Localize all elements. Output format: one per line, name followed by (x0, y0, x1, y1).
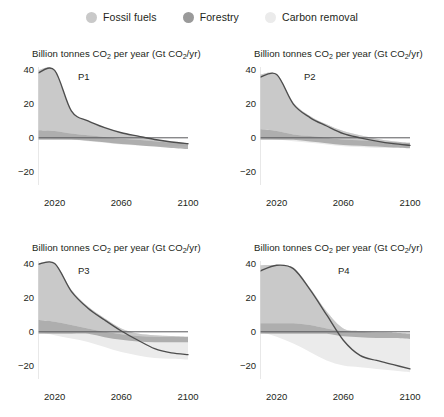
panel-grid: Billion tonnes CO2 per year (Gt CO2/yr)4… (0, 34, 444, 417)
plot-p2 (260, 67, 416, 189)
panel-title: Billion tonnes CO2 per year (Gt CO2/yr) (32, 242, 201, 253)
legend-swatch-carbon-removal (265, 12, 276, 23)
legend-swatch-forestry (183, 12, 194, 23)
panel-title-text: Billion tonnes CO2 per year (Gt CO2/yr) (32, 48, 201, 59)
plot-p1 (38, 67, 194, 189)
panel-title-text: Billion tonnes CO2 per year (Gt CO2/yr) (254, 242, 423, 253)
plot-p4 (260, 261, 416, 383)
legend-item-fossil-fuels: Fossil fuels (86, 11, 157, 23)
x-axis-tick-2: 2100 (390, 197, 430, 208)
y-axis-tick-2: 0 (12, 326, 34, 337)
panel-code-label: P4 (338, 265, 350, 276)
panel-code-label: P1 (78, 71, 90, 82)
panel-title-text: Billion tonnes CO2 per year (Gt CO2/yr) (32, 242, 201, 253)
legend-label-carbon-removal: Carbon removal (282, 11, 358, 23)
panel-title: Billion tonnes CO2 per year (Gt CO2/yr) (32, 48, 201, 59)
x-axis-tick-2: 2100 (168, 197, 208, 208)
x-axis-tick-0: 2020 (257, 391, 297, 402)
y-axis-tick-3: −20 (12, 360, 34, 371)
area-fossil-fuels (260, 265, 410, 333)
y-axis-tick-3: −20 (234, 166, 256, 177)
x-axis-tick-1: 2060 (101, 197, 141, 208)
legend-label-fossil-fuels: Fossil fuels (103, 11, 157, 23)
plot-area-p4 (260, 261, 416, 383)
y-axis-tick-2: 0 (234, 326, 256, 337)
panel-title: Billion tonnes CO2 per year (Gt CO2/yr) (254, 242, 423, 253)
x-axis-tick-0: 2020 (35, 391, 75, 402)
x-axis-tick-2: 2100 (168, 391, 208, 402)
panel-code-label: P3 (78, 265, 90, 276)
plot-area-p3 (38, 261, 194, 383)
panel-p2: Billion tonnes CO2 per year (Gt CO2/yr)4… (222, 34, 444, 228)
legend-label-forestry: Forestry (200, 11, 239, 23)
y-axis-tick-0: 40 (234, 64, 256, 75)
x-axis-tick-0: 2020 (257, 197, 297, 208)
y-axis-tick-1: 20 (234, 292, 256, 303)
panel-p1: Billion tonnes CO2 per year (Gt CO2/yr)4… (0, 34, 222, 228)
x-axis-tick-1: 2060 (101, 391, 141, 402)
x-axis-tick-2: 2100 (390, 391, 430, 402)
panel-p3: Billion tonnes CO2 per year (Gt CO2/yr)4… (0, 228, 222, 417)
y-axis-tick-0: 40 (12, 258, 34, 269)
x-axis-tick-1: 2060 (323, 391, 363, 402)
x-axis-tick-1: 2060 (323, 197, 363, 208)
y-axis-tick-3: −20 (12, 166, 34, 177)
panel-p4: Billion tonnes CO2 per year (Gt CO2/yr)4… (222, 228, 444, 417)
legend-swatch-fossil-fuels (86, 12, 97, 23)
plot-area-p1 (38, 67, 194, 189)
panel-title-text: Billion tonnes CO2 per year (Gt CO2/yr) (254, 48, 423, 59)
y-axis-tick-1: 20 (12, 98, 34, 109)
plot-p3 (38, 261, 194, 383)
chart-legend: Fossil fuels Forestry Carbon removal (0, 0, 444, 34)
panel-title: Billion tonnes CO2 per year (Gt CO2/yr) (254, 48, 423, 59)
y-axis-tick-1: 20 (12, 292, 34, 303)
legend-item-carbon-removal: Carbon removal (265, 11, 358, 23)
x-axis-tick-0: 2020 (35, 197, 75, 208)
y-axis-tick-0: 40 (12, 64, 34, 75)
plot-area-p2 (260, 67, 416, 189)
y-axis-tick-3: −20 (234, 360, 256, 371)
y-axis-tick-1: 20 (234, 98, 256, 109)
y-axis-tick-2: 0 (12, 132, 34, 143)
legend-item-forestry: Forestry (183, 11, 239, 23)
y-axis-tick-2: 0 (234, 132, 256, 143)
y-axis-tick-0: 40 (234, 258, 256, 269)
panel-code-label: P2 (304, 71, 316, 82)
